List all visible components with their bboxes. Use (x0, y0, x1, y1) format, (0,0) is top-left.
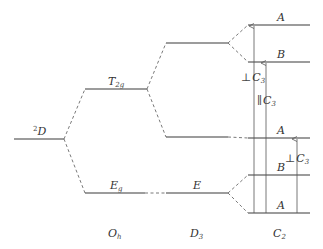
correlation-line (228, 43, 248, 62)
correlation-line (228, 25, 248, 43)
correlation-line (228, 175, 248, 193)
c2-level-a-top: A (248, 11, 310, 25)
correlation-line (147, 43, 166, 89)
oh-level-t2g: T2g (85, 75, 147, 89)
correlation-line (147, 89, 166, 137)
correlation-line (64, 139, 85, 193)
column-label-oh: Oh (108, 227, 122, 241)
t2g-label: T2g (108, 75, 125, 89)
free-ion-level: 2D (14, 125, 64, 139)
svg-text:A: A (276, 124, 285, 137)
column-label-d3: D3 (189, 227, 204, 241)
correlation-line (64, 89, 85, 139)
energy-level-diagram: 2D T2g Eg E A B (0, 0, 323, 249)
c2-level-a-middle: A (248, 124, 310, 138)
svg-text:A: A (276, 11, 285, 24)
eg-label: Eg (109, 179, 123, 193)
oh-level-eg: Eg (85, 179, 145, 193)
c2-level-a-bottom: A (248, 199, 310, 213)
svg-text:B: B (276, 161, 285, 174)
transition-label-parallel: ∥C3 (257, 94, 277, 108)
c2-level-b-upper: B (248, 48, 310, 62)
free-ion-label: 2D (33, 125, 46, 138)
transition-label-perp-2: ⊥C3 (285, 152, 310, 166)
e-label: E (192, 179, 201, 192)
svg-text:A: A (276, 199, 285, 212)
column-label-c2: C2 (273, 227, 286, 241)
correlation-line (228, 193, 248, 213)
d3-level-e: E (166, 179, 228, 193)
correlation-line (228, 137, 248, 138)
svg-text:B: B (276, 48, 285, 61)
transition-label-perp-1: ⊥C3 (241, 71, 266, 85)
